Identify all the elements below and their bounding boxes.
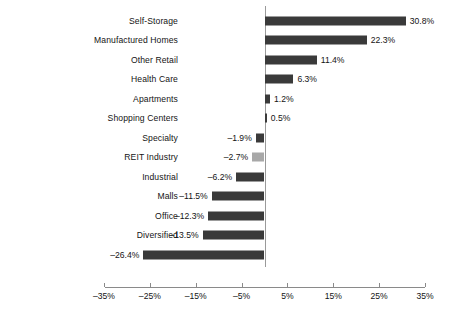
value-label: –2.7% — [224, 152, 248, 162]
x-tick-label: 25% — [371, 291, 388, 301]
value-label: –26.4% — [110, 250, 139, 260]
x-tick-mark — [104, 283, 105, 287]
category-label: Specialty — [142, 133, 178, 143]
x-tick-mark — [287, 283, 288, 287]
value-label: –6.2% — [208, 172, 232, 182]
bar — [265, 114, 267, 123]
category-label: Industrial — [142, 172, 178, 182]
x-tick-mark — [196, 283, 197, 287]
bar — [203, 231, 265, 240]
x-tick-mark — [242, 283, 243, 287]
bar-row: Other Retail11.4% — [0, 50, 453, 70]
value-label: 22.3% — [371, 35, 395, 45]
bar-row: Apartments1.2% — [0, 89, 453, 109]
bar-row: Self-Storage30.8% — [0, 11, 453, 31]
bar-row: Specialty–1.9% — [0, 128, 453, 148]
bar — [265, 75, 294, 84]
bar-row: REIT Industry–2.7% — [0, 148, 453, 168]
bar — [256, 133, 265, 142]
value-label: 11.4% — [321, 55, 345, 65]
category-label: Health Care — [131, 74, 178, 84]
plot-area: Self-Storage30.8%Manufactured Homes22.3%… — [0, 0, 453, 317]
x-tick-label: 15% — [325, 291, 342, 301]
bar-row: Industrial–6.2% — [0, 167, 453, 187]
bar-row: Office–12.3% — [0, 206, 453, 226]
bar-row: Health Care6.3% — [0, 70, 453, 90]
x-tick-mark — [425, 283, 426, 287]
category-label: Manufactured Homes — [94, 35, 178, 45]
bar — [265, 16, 406, 25]
category-label: Apartments — [133, 94, 178, 104]
category-label: Self-Storage — [129, 16, 178, 26]
x-tick-label: 5% — [281, 291, 293, 301]
bar-chart: Self-Storage30.8%Manufactured Homes22.3%… — [0, 0, 453, 317]
category-label: REIT Industry — [124, 152, 178, 162]
category-label: Malls — [157, 191, 178, 201]
x-tick-label: –5% — [233, 291, 250, 301]
bar — [265, 94, 271, 103]
bar — [143, 250, 264, 259]
category-label: Other Retail — [131, 55, 178, 65]
x-tick-label: –15% — [185, 291, 207, 301]
bar — [265, 55, 317, 64]
value-label: –1.9% — [227, 133, 251, 143]
bar-row: Hotel–26.4% — [0, 245, 453, 265]
value-label: 1.2% — [274, 94, 294, 104]
value-label: 0.5% — [271, 113, 291, 123]
x-tick-mark — [379, 283, 380, 287]
bar-row: Manufactured Homes22.3% — [0, 31, 453, 51]
bar — [236, 172, 264, 181]
value-label: 6.3% — [297, 74, 317, 84]
x-tick-label: –35% — [93, 291, 115, 301]
value-label: 30.8% — [410, 16, 434, 26]
bar — [212, 192, 265, 201]
x-tick-mark — [333, 283, 334, 287]
bar-highlight — [252, 153, 264, 162]
bar-row: Malls–11.5% — [0, 187, 453, 207]
bar-row: Shopping Centers0.5% — [0, 109, 453, 129]
category-label: Shopping Centers — [108, 113, 178, 123]
x-axis-line — [105, 287, 425, 288]
bar — [208, 211, 264, 220]
value-label: –12.3% — [175, 211, 204, 221]
bar-row: Diversified–13.5% — [0, 226, 453, 246]
x-tick-mark — [150, 283, 151, 287]
value-label: –13.5% — [169, 230, 198, 240]
x-tick-label: 35% — [416, 291, 433, 301]
value-label: –11.5% — [179, 191, 208, 201]
bar — [265, 36, 367, 45]
x-tick-label: –25% — [139, 291, 161, 301]
